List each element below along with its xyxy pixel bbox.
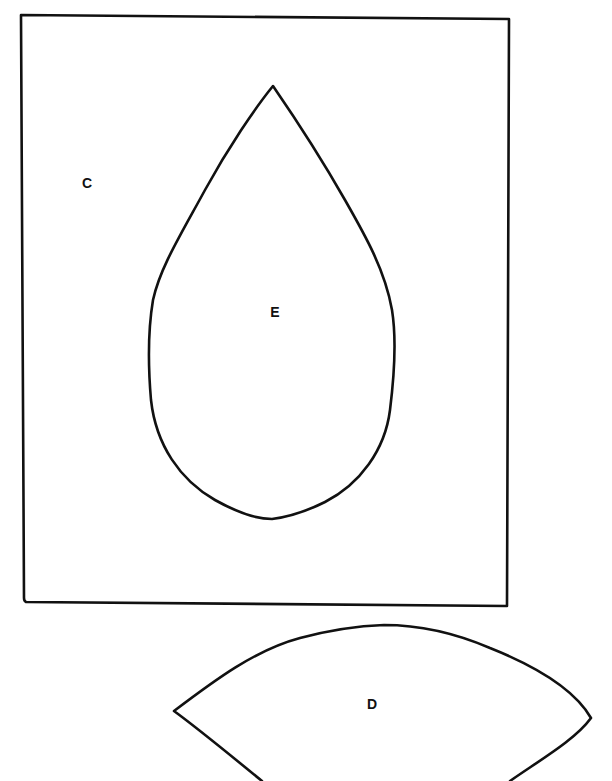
- piece-e-label: E: [270, 305, 279, 319]
- piece-e-teardrop-outline: [149, 86, 395, 519]
- piece-d-label: D: [367, 697, 377, 711]
- pattern-diagram: [0, 0, 612, 781]
- piece-d-lens-outline: [174, 625, 591, 781]
- piece-c-label: C: [82, 176, 92, 190]
